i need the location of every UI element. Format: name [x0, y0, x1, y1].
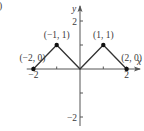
y-axis-label: y — [71, 4, 77, 14]
y-tick-label: 2 — [72, 17, 77, 27]
y-tick-label: −2 — [67, 113, 77, 123]
data-point — [124, 67, 128, 71]
point-label: (−1, 1) — [44, 30, 70, 41]
panel-label: ) — [0, 1, 2, 12]
data-point — [31, 67, 35, 71]
data-point — [55, 43, 59, 47]
point-label: (1, 1) — [93, 30, 114, 41]
labels: (−2, 0)(−1, 1)(1, 1)(2, 0) — [19, 30, 141, 64]
data-point — [101, 43, 105, 47]
x-tick-label: −2 — [28, 70, 38, 80]
x-tick-label: 2 — [124, 70, 129, 80]
function-plot: ) xy −22−22 (−2, 0)(−1, 1)(1, 1)(2, 0) — [0, 0, 144, 131]
point-label: (2, 0) — [121, 53, 142, 64]
point-label: (−2, 0) — [19, 53, 45, 64]
